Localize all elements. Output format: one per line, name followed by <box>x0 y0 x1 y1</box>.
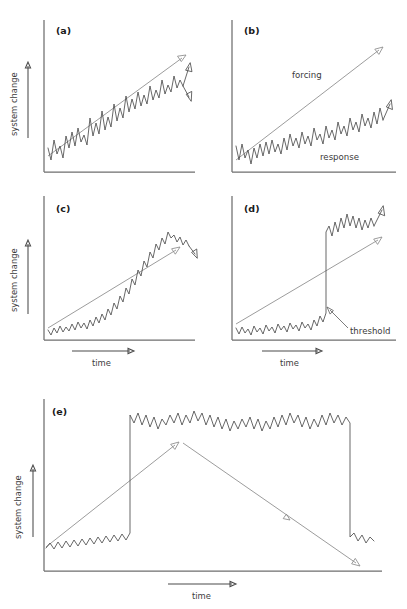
panel-d-threshold-label: threshold <box>350 326 390 336</box>
panel-b-response-series <box>236 108 383 164</box>
panel-b: (b) forcing response <box>200 8 407 188</box>
panel-e-y-axis-arrow <box>30 465 35 537</box>
panel-c-label: (c) <box>56 203 70 214</box>
panel-a-forcing-arrow <box>48 55 186 156</box>
panel-b-response-arrow <box>383 100 392 120</box>
panel-e-label: (e) <box>52 406 67 417</box>
panel-c-response-series <box>48 232 189 335</box>
panel-b-forcing-arrow <box>236 47 383 160</box>
panel-d: (d) threshold time <box>200 188 407 370</box>
panel-d-label: (d) <box>244 203 259 214</box>
panel-e-y-axis-label: system change <box>13 475 23 539</box>
panel-e-forcing-up-arrow <box>46 442 179 547</box>
panel-c-x-axis-label: time <box>92 358 111 368</box>
panel-c-y-axis-label: system change <box>9 248 19 312</box>
panel-d-x-axis-arrow <box>262 348 322 353</box>
panel-e-x-axis-arrow <box>168 581 236 586</box>
panel-e: system change (e) time <box>0 385 407 609</box>
panel-d-x-axis-label: time <box>280 358 299 368</box>
panel-c-y-axis-arrow <box>25 240 30 314</box>
panel-a-response-series <box>48 76 183 160</box>
panel-a-label: (a) <box>56 25 71 36</box>
panel-b-label: (b) <box>244 25 259 36</box>
panel-b-response-label: response <box>320 152 359 162</box>
panel-a-y-axis-arrow <box>25 62 30 138</box>
panel-d-threshold-pointer <box>327 307 348 328</box>
panel-c-response-arrow <box>189 246 197 258</box>
panel-a-y-axis-label: system change <box>9 72 19 136</box>
panel-e-response-series <box>46 411 374 549</box>
panel-c: system change (c) time <box>0 188 200 370</box>
panel-c-x-axis-arrow <box>72 348 134 353</box>
panel-a-response-arrow <box>183 63 192 101</box>
panel-a: system change (a) <box>0 8 200 188</box>
panel-d-response-arrow <box>374 206 384 226</box>
panel-e-forcing-down-arrow <box>183 443 360 566</box>
panel-c-forcing-arrow <box>48 247 180 328</box>
panel-e-x-axis-label: time <box>192 591 211 601</box>
panel-b-forcing-label: forcing <box>292 70 322 80</box>
panel-d-forcing-arrow <box>236 237 382 324</box>
panel-d-response-series <box>236 214 374 335</box>
